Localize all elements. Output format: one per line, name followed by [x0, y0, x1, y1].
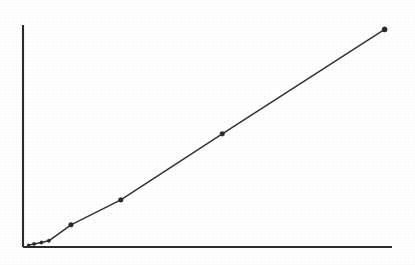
axes-group	[23, 25, 392, 247]
data-point	[69, 222, 74, 227]
data-point	[220, 131, 225, 136]
data-point	[118, 198, 123, 203]
data-point	[382, 27, 387, 32]
data-series-line	[29, 29, 385, 245]
data-point	[47, 239, 50, 242]
data-series-markers	[27, 27, 387, 247]
chart-figure	[0, 0, 415, 265]
data-point	[27, 244, 30, 247]
data-point	[40, 241, 43, 244]
plot-canvas	[0, 0, 415, 265]
data-series-group	[27, 27, 387, 247]
data-point	[32, 242, 35, 245]
